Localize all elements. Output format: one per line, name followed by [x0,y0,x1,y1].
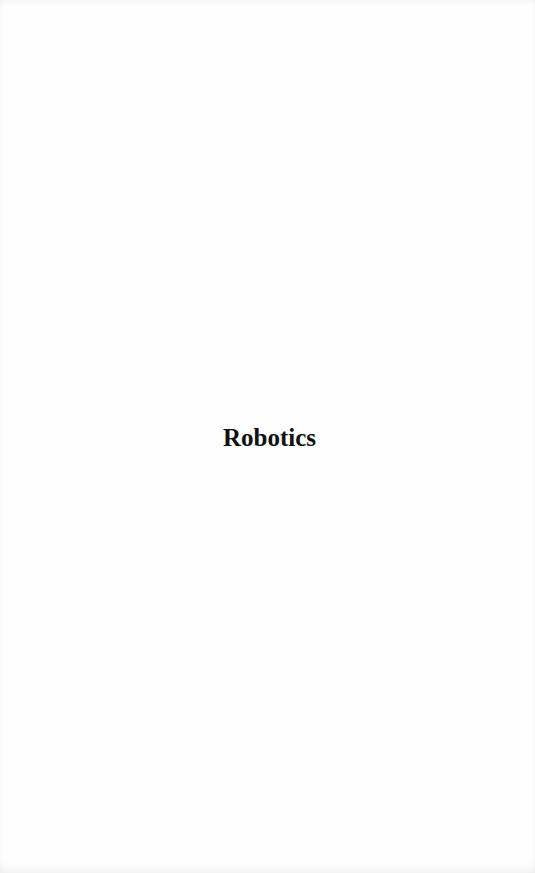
half-title: Robotics [0,423,535,453]
book-page: Robotics [0,0,535,873]
